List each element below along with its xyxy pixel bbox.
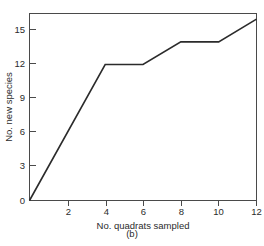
y-tick-label-3: 3 — [20, 160, 25, 171]
y-tick-label-6: 6 — [20, 126, 25, 137]
y-tick-label-15: 15 — [14, 24, 25, 35]
plot-frame — [30, 14, 257, 201]
series-line-cumulative-new-species — [30, 19, 257, 200]
line-chart: 0 3 6 9 12 15 2 4 6 8 10 12 No. quadrats… — [0, 0, 264, 246]
x-tick-label-10: 10 — [213, 206, 224, 217]
y-axis-title: No. new species — [3, 72, 14, 142]
x-tick-label-8: 8 — [179, 206, 184, 217]
y-axis-ticks — [30, 30, 36, 201]
x-tick-label-6: 6 — [141, 206, 146, 217]
y-axis-tick-labels: 0 3 6 9 12 15 — [14, 24, 25, 206]
figure-panel: 0 3 6 9 12 15 2 4 6 8 10 12 No. quadrats… — [0, 0, 264, 246]
y-tick-label-9: 9 — [20, 92, 25, 103]
y-tick-label-12: 12 — [14, 58, 25, 69]
x-tick-label-2: 2 — [66, 206, 71, 217]
x-axis-ticks — [69, 201, 257, 206]
x-axis-tick-labels: 2 4 6 8 10 12 — [66, 206, 262, 217]
x-tick-label-4: 4 — [104, 206, 109, 217]
y-tick-label-0: 0 — [20, 195, 25, 206]
figure-caption: (b) — [0, 228, 264, 239]
x-tick-label-12: 12 — [251, 206, 262, 217]
